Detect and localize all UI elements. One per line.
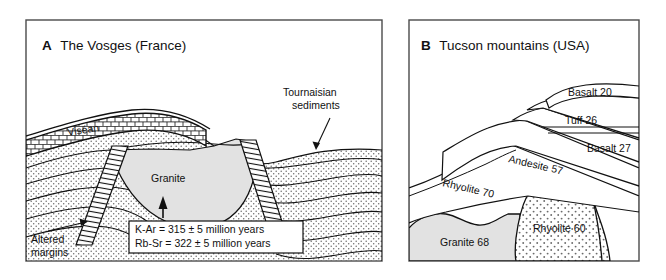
label-tournaisian-line1: Tournaisian [283,86,337,98]
panel-b: B Tucson mountains (USA) Basalt 20 Tuff … [409,20,639,261]
panel-a-title: A The Vosges (France) [42,38,186,53]
cross-section-diagram: A The Vosges (France) Viséan Granite Tou… [0,0,666,280]
panel-b-letter: B [421,38,431,53]
label-granite: Granite [151,172,186,184]
label-basalt27: Basalt 27 [587,142,631,154]
age-box: K-Ar = 315 ± 5 million years Rb-Sr = 322… [129,221,303,253]
geology-figure: A The Vosges (France) Viséan Granite Tou… [0,0,666,280]
label-altered-line2: margins [31,246,68,258]
panel-b-title: B Tucson mountains (USA) [421,38,590,53]
label-tuff26: Tuff 26 [565,114,597,126]
panel-b-title-text: Tucson mountains (USA) [439,38,589,53]
label-basalt20: Basalt 20 [568,86,612,98]
label-tournaisian-line2: sediments [292,99,340,111]
label-rhyolite60: Rhyolite 60 [533,222,586,234]
age-box-line-kar: K-Ar = 315 ± 5 million years [135,223,264,235]
panel-a-letter: A [42,38,52,53]
label-altered-line1: Altered [31,233,64,245]
age-box-line-rbsr: Rb-Sr = 322 ± 5 million years [135,237,271,249]
panel-a: A The Vosges (France) Viséan Granite Tou… [26,20,382,261]
panel-a-title-text: The Vosges (France) [60,38,186,53]
label-granite68: Granite 68 [440,236,489,248]
